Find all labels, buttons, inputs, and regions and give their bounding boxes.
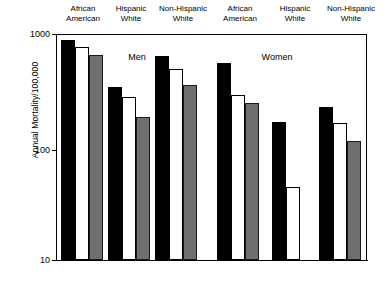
group-header-women-african-american: African American	[209, 4, 271, 23]
bar-men-hispanic-white-2	[122, 97, 136, 260]
bar-women-african-american-1	[217, 63, 231, 260]
y-tick-label-10: 10	[22, 255, 50, 265]
group-header-line2: American	[209, 14, 271, 24]
y-tick-label-100: 100	[22, 145, 50, 155]
group-header-line2: White	[150, 14, 216, 24]
bar-women-non-hispanic-white-3	[347, 141, 361, 260]
bar-women-non-hispanic-white-1	[319, 107, 333, 260]
group-header-line2: White	[317, 14, 385, 24]
bar-women-hispanic-white-1	[272, 122, 286, 260]
bar-men-hispanic-white-3	[136, 117, 150, 260]
bar-men-non-hispanic-white-1	[155, 56, 169, 260]
y-tick-label-1000: 1000	[22, 29, 50, 39]
bar-men-hispanic-white-1	[108, 87, 122, 260]
group-header-women-non-hispanic-white: Non-Hispanic White	[317, 4, 385, 23]
bar-women-hispanic-white-2	[286, 187, 300, 260]
plot-area: Men Women	[56, 34, 367, 261]
group-header-line2: White	[268, 14, 322, 24]
bar-men-african-american-2	[75, 47, 89, 260]
bar-women-non-hispanic-white-2	[333, 123, 347, 260]
group-header-line1: Non-Hispanic	[317, 4, 385, 14]
bar-women-african-american-3	[245, 103, 259, 260]
y-axis-label: Annual Mortality/100,000	[30, 15, 40, 205]
group-header-men-non-hispanic-white: Non-Hispanic White	[150, 4, 216, 23]
group-header-line1: Hispanic	[268, 4, 322, 14]
group-header-women-hispanic-white: Hispanic White	[268, 4, 322, 23]
x-axis-line	[56, 260, 368, 261]
bar-men-african-american-3	[89, 55, 103, 260]
panel-label-women: Women	[247, 52, 307, 62]
group-header-line1: African	[209, 4, 271, 14]
group-header-line1: Non-Hispanic	[150, 4, 216, 14]
bar-men-african-american-1	[61, 40, 75, 260]
bar-women-african-american-2	[231, 95, 245, 260]
bar-men-non-hispanic-white-3	[183, 85, 197, 260]
bar-men-non-hispanic-white-2	[169, 69, 183, 260]
figure: Annual Mortality/100,000 1000 100 10 Afr…	[0, 0, 390, 287]
